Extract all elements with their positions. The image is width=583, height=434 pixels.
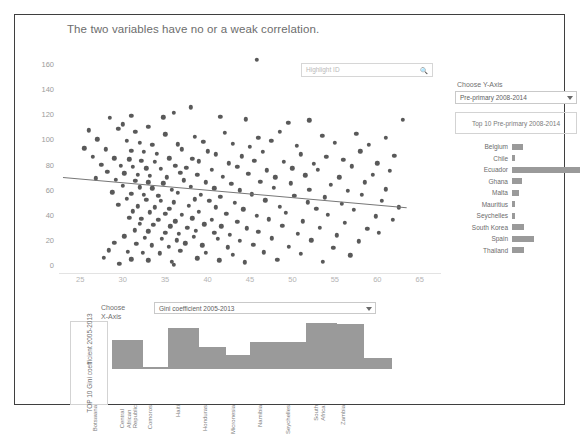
scatter-point[interactable] — [320, 133, 324, 137]
scatter-point[interactable] — [190, 216, 194, 220]
scatter-point[interactable] — [321, 259, 325, 263]
scatter-point[interactable] — [375, 161, 379, 165]
scatter-point[interactable] — [390, 218, 394, 222]
scatter-point[interactable] — [278, 130, 282, 134]
scatter-point[interactable] — [309, 238, 313, 242]
bar-column[interactable]: Zambia — [361, 321, 392, 405]
scatter-point[interactable] — [99, 162, 103, 166]
scatter-point[interactable] — [307, 188, 311, 192]
scatter-point[interactable] — [95, 137, 99, 141]
scatter-point[interactable] — [270, 236, 274, 240]
scatter-point[interactable] — [183, 241, 187, 245]
scatter-point[interactable] — [163, 212, 167, 216]
scatter-point[interactable] — [105, 170, 109, 174]
scatter-point[interactable] — [103, 147, 107, 151]
scatter-point[interactable] — [192, 235, 196, 239]
scatter-point[interactable] — [231, 253, 235, 257]
scatter-point[interactable] — [384, 136, 388, 140]
scatter-point[interactable] — [129, 191, 133, 195]
scatter-point[interactable] — [178, 171, 182, 175]
scatter-point[interactable] — [193, 197, 197, 201]
scatter-point[interactable] — [248, 145, 252, 149]
scatter-point[interactable] — [150, 186, 154, 190]
scatter-point[interactable] — [244, 226, 248, 230]
scatter-point[interactable] — [337, 175, 341, 179]
scatter-point[interactable] — [217, 258, 221, 262]
scatter-point[interactable] — [244, 117, 248, 121]
scatter-point[interactable] — [256, 136, 260, 140]
scatter-point[interactable] — [176, 232, 180, 236]
scatter-point[interactable] — [163, 230, 167, 234]
scatter-point[interactable] — [314, 206, 318, 210]
scatter-point[interactable] — [171, 200, 175, 204]
scatter-point[interactable] — [343, 220, 347, 224]
scatter-point[interactable] — [388, 169, 392, 173]
scatter-point[interactable] — [287, 244, 291, 248]
scatter-point[interactable] — [266, 217, 270, 221]
scatter-point[interactable] — [137, 141, 141, 145]
scatter-point[interactable] — [139, 217, 143, 221]
scatter-point[interactable] — [204, 180, 208, 184]
scatter-point[interactable] — [273, 175, 277, 179]
scatter-point[interactable] — [197, 210, 201, 214]
scatter-point[interactable] — [153, 205, 157, 209]
scatter-point[interactable] — [207, 199, 211, 203]
bar-column[interactable]: Seychelles — [306, 321, 337, 405]
scatter-point[interactable] — [173, 219, 177, 223]
scatter-point[interactable] — [311, 162, 315, 166]
scatter-point[interactable] — [197, 159, 201, 163]
scatter-point[interactable] — [139, 159, 143, 163]
scatter-point[interactable] — [222, 131, 226, 135]
scatter-point[interactable] — [151, 223, 155, 227]
scatter-point[interactable] — [131, 165, 135, 169]
legend-row[interactable]: Ghana — [455, 176, 581, 188]
scatter-point[interactable] — [239, 154, 243, 158]
scatter-point[interactable] — [226, 245, 230, 249]
scatter-point[interactable] — [283, 211, 287, 215]
scatter-point[interactable] — [216, 237, 220, 241]
bar-column[interactable]: Comoros — [168, 321, 199, 405]
scatter-point[interactable] — [137, 185, 141, 189]
scatter-point[interactable] — [214, 205, 218, 209]
scatter-point[interactable] — [175, 238, 179, 242]
scatter-point[interactable] — [154, 152, 158, 156]
scatter-point[interactable] — [119, 164, 123, 168]
legend-row[interactable]: Malta — [455, 187, 581, 199]
scatter-point[interactable] — [299, 252, 303, 256]
scatter-point[interactable] — [204, 251, 208, 255]
scatter-point[interactable] — [354, 131, 358, 135]
scatter-point[interactable] — [148, 210, 152, 214]
scatter-point[interactable] — [350, 164, 354, 168]
scatter-point[interactable] — [126, 249, 130, 253]
scatter-point[interactable] — [158, 251, 162, 255]
scatter-point[interactable] — [149, 243, 153, 247]
scatter-point[interactable] — [316, 167, 320, 171]
scatter-point[interactable] — [362, 180, 366, 184]
scatter-point[interactable] — [112, 241, 116, 245]
scatter-point[interactable] — [146, 258, 150, 262]
scatter-point[interactable] — [256, 230, 260, 234]
highlight-id-search[interactable]: Highlight ID 🔍 — [301, 63, 433, 77]
scatter-point[interactable] — [219, 224, 223, 228]
scatter-point[interactable] — [141, 251, 145, 255]
legend-row[interactable]: Seychelles — [455, 210, 581, 222]
scatter-point[interactable] — [255, 58, 259, 62]
scatter-point[interactable] — [168, 224, 172, 228]
scatter-point[interactable] — [127, 215, 131, 219]
scatter-point[interactable] — [142, 150, 146, 154]
scatter-point[interactable] — [221, 174, 225, 178]
scatter-point[interactable] — [333, 141, 337, 145]
scatter-point[interactable] — [401, 118, 405, 122]
scatter-point[interactable] — [205, 149, 209, 153]
scatter-point[interactable] — [159, 199, 163, 203]
scatter-point[interactable] — [392, 153, 396, 157]
scatter-point[interactable] — [185, 225, 189, 229]
scatter-point[interactable] — [286, 121, 290, 125]
scatter-point[interactable] — [303, 173, 307, 177]
scatter-point[interactable] — [326, 213, 330, 217]
bar-column[interactable]: Honduras — [223, 321, 254, 405]
scatter-point[interactable] — [227, 232, 231, 236]
scatter-point[interactable] — [214, 152, 218, 156]
bar-column[interactable]: SouthAfrica — [333, 321, 364, 405]
scatter-point[interactable] — [125, 138, 129, 142]
